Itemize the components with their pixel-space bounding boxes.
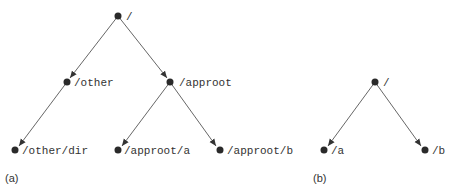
node-approot-a (115, 147, 122, 154)
edge-root-b (375, 82, 421, 146)
caption-a: (a) (5, 172, 18, 184)
tree-b: / /a /b (b) (313, 77, 445, 184)
node-label: /other (74, 77, 114, 89)
edge-approot-b (170, 82, 216, 146)
node-approot-b (217, 147, 224, 154)
edge-root-a (328, 82, 375, 146)
node-approot (167, 79, 174, 86)
edge-root-approot (118, 16, 167, 78)
node-root (115, 13, 122, 20)
tree-diagrams: / /other /approot /other/dir /approot/a … (0, 0, 454, 190)
node-label: /approot/a (124, 145, 190, 157)
caption-b: (b) (313, 172, 326, 184)
node-label: / (383, 77, 390, 89)
node-label: /approot (179, 77, 232, 89)
edge-approot-a (122, 82, 170, 146)
node-other-dir (12, 147, 19, 154)
node-other (64, 79, 71, 86)
node-a (321, 147, 328, 154)
node-label: /a (331, 145, 345, 157)
node-b (422, 147, 429, 154)
node-root (372, 79, 379, 86)
edge-other-otherdir (19, 82, 67, 146)
node-label: /other/dir (22, 145, 88, 157)
edge-root-other (70, 16, 118, 78)
node-label: /approot/b (227, 145, 293, 157)
node-label: /b (432, 145, 445, 157)
tree-a: / /other /approot /other/dir /approot/a … (5, 11, 293, 184)
node-label: / (126, 11, 133, 23)
